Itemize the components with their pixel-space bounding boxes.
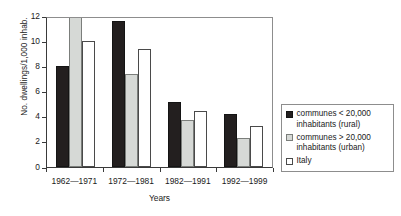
- bar: [125, 74, 138, 167]
- x-tick-mark: [46, 168, 47, 172]
- x-category-label: 1972—1981: [103, 176, 160, 186]
- bar-group: [103, 18, 159, 167]
- legend-label-rural-line1: communes < 20,000: [297, 109, 371, 118]
- y-tick-label: 10: [20, 36, 40, 46]
- x-category-label: 1962—1971: [46, 176, 103, 186]
- y-tick-mark: [42, 17, 46, 18]
- y-tick-label: 0: [20, 162, 40, 172]
- bar-group: [47, 18, 103, 167]
- x-tick-mark: [160, 168, 161, 172]
- legend-label-rural: communes < 20,000 inhabitants (rural): [297, 109, 371, 130]
- bar-group: [160, 18, 216, 167]
- x-tick-mark: [273, 168, 274, 172]
- y-tick-mark: [42, 142, 46, 143]
- bar: [224, 114, 237, 167]
- x-axis-title: Years: [46, 193, 273, 203]
- bar: [250, 126, 263, 167]
- legend-item-urban: communes > 20,000 inhabitants (urban): [286, 133, 389, 154]
- x-tick-mark: [216, 168, 217, 172]
- bar: [194, 111, 207, 167]
- y-tick-label: 8: [20, 61, 40, 71]
- legend-label-italy: Italy: [297, 156, 312, 167]
- bar-chart-figure: No. dwellings/1,000 inhab. 024681012 196…: [0, 0, 401, 216]
- y-tick-mark: [42, 117, 46, 118]
- legend-item-rural: communes < 20,000 inhabitants (rural): [286, 109, 389, 130]
- bar-groups: [47, 18, 272, 167]
- x-category-label: 1992—1999: [216, 176, 273, 186]
- x-category-label: 1982—1991: [160, 176, 217, 186]
- y-tick-label: 12: [20, 11, 40, 21]
- bar: [181, 120, 194, 167]
- bar: [168, 102, 181, 167]
- legend-label-urban: communes > 20,000 inhabitants (urban): [297, 133, 371, 154]
- bar: [56, 66, 69, 167]
- legend-label-urban-line1: communes > 20,000: [297, 133, 371, 142]
- legend-swatch-urban: [286, 134, 293, 141]
- bar: [112, 21, 125, 167]
- y-tick-label: 4: [20, 111, 40, 121]
- x-tick-mark: [103, 168, 104, 172]
- legend-swatch-italy: [286, 158, 293, 165]
- y-tick-mark: [42, 42, 46, 43]
- legend-label-rural-line2: inhabitants (rural): [297, 120, 361, 129]
- plot-area: [46, 17, 273, 168]
- y-tick-label: 2: [20, 136, 40, 146]
- bar-group: [216, 18, 272, 167]
- legend-label-urban-line2: inhabitants (urban): [297, 143, 365, 152]
- bar: [237, 138, 250, 167]
- y-tick-mark: [42, 67, 46, 68]
- legend: communes < 20,000 inhabitants (rural) co…: [281, 104, 394, 172]
- bar: [138, 49, 151, 167]
- bar: [82, 41, 95, 167]
- bar: [69, 18, 82, 167]
- legend-item-italy: Italy: [286, 156, 389, 167]
- legend-swatch-rural: [286, 111, 293, 118]
- y-tick-mark: [42, 92, 46, 93]
- y-tick-label: 6: [20, 86, 40, 96]
